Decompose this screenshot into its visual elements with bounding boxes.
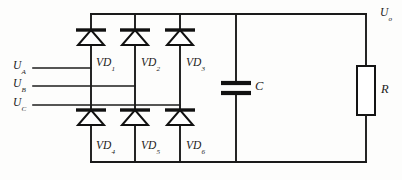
source-label-uc: UC — [13, 97, 26, 111]
diode-vd4 — [76, 110, 106, 125]
diode-label-vd1: VD1 — [96, 57, 115, 71]
source-label-ub: UB — [13, 78, 26, 92]
diode-vd5 — [120, 110, 150, 125]
capacitor-label: C — [255, 80, 263, 93]
diode-vd2 — [120, 30, 150, 45]
diode-label-vd6: VD6 — [186, 140, 205, 154]
diode-label-vd2: VD2 — [141, 57, 160, 71]
resistor-label: R — [381, 83, 389, 96]
resistor-body — [357, 66, 375, 115]
diode-vd1 — [76, 30, 106, 45]
output-voltage-label: Uo — [380, 7, 392, 21]
diode-label-vd5: VD5 — [141, 140, 160, 154]
diode-vd6 — [165, 110, 195, 125]
source-label-ua: UA — [13, 60, 26, 74]
diode-label-vd3: VD3 — [186, 57, 205, 71]
diode-vd3 — [165, 30, 195, 45]
diode-label-vd4: VD4 — [96, 140, 115, 154]
circuit-diagram: UA UB UC VD1 VD2 VD3 VD4 VD5 VD6 C R Uo — [0, 0, 402, 180]
